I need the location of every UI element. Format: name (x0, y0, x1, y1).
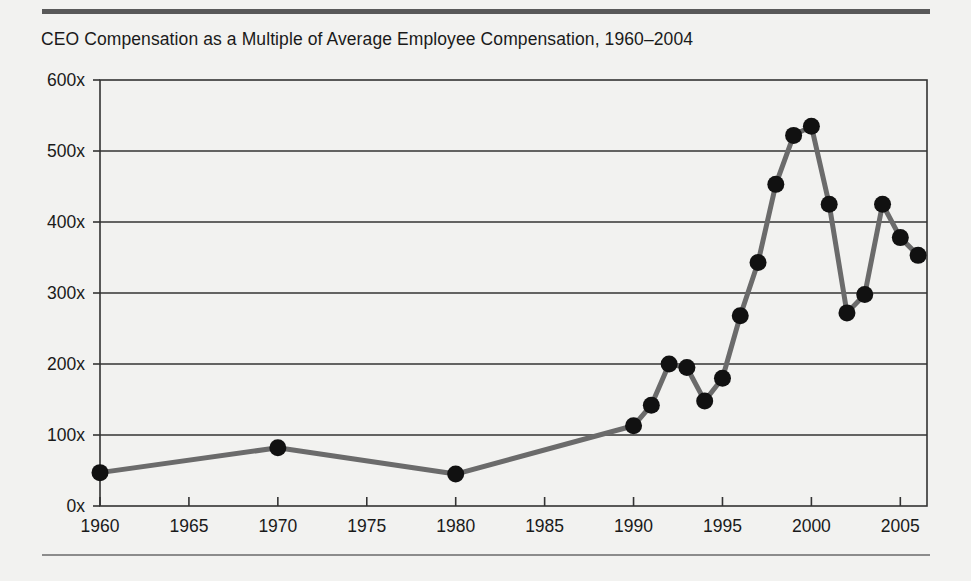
data-point-1960 (92, 464, 109, 481)
data-point-1999 (785, 127, 802, 144)
data-point-1997 (750, 254, 767, 271)
x-tick-label-1985: 1985 (525, 516, 564, 536)
y-tick-label-600: 600x (47, 70, 85, 90)
x-tick-label-1975: 1975 (347, 516, 386, 536)
line-chart-svg: 0x100x200x300x400x500x600x 1960196519701… (0, 0, 971, 581)
plot-area-wrapper: 0x100x200x300x400x500x600x 1960196519701… (0, 0, 971, 581)
data-points-group (92, 118, 927, 483)
data-point-1993 (678, 359, 695, 376)
data-point-1991 (643, 397, 660, 414)
data-point-1992 (661, 356, 678, 373)
data-point-2004 (874, 196, 891, 213)
data-point-1998 (767, 176, 784, 193)
x-axis-ticks-group (100, 497, 900, 506)
x-axis-labels-group: 1960196519701975198019851990199520002005 (81, 516, 920, 536)
data-point-2002 (838, 304, 855, 321)
y-axis-ticks-group (93, 80, 100, 506)
data-series-line (100, 126, 918, 474)
bottom-rule-divider (42, 554, 930, 556)
x-tick-label-2005: 2005 (881, 516, 920, 536)
data-point-1995 (714, 370, 731, 387)
y-axis-labels-group: 0x100x200x300x400x500x600x (47, 70, 85, 516)
x-tick-label-2000: 2000 (792, 516, 831, 536)
y-tick-label-0: 0x (67, 496, 86, 516)
x-tick-label-1960: 1960 (81, 516, 120, 536)
x-tick-label-1990: 1990 (614, 516, 653, 536)
y-tick-label-200: 200x (47, 354, 85, 374)
y-tick-label-400: 400x (47, 212, 85, 232)
data-point-1996 (732, 307, 749, 324)
data-point-2000 (803, 118, 820, 135)
gridlines-group (100, 151, 927, 435)
x-tick-label-1980: 1980 (436, 516, 475, 536)
data-point-1994 (696, 392, 713, 409)
data-point-1970 (269, 439, 286, 456)
data-point-2005 (892, 229, 909, 246)
data-point-2003 (856, 286, 873, 303)
data-line-group (100, 126, 918, 474)
data-point-2006 (910, 247, 927, 264)
y-tick-label-300: 300x (47, 283, 85, 303)
data-point-1980 (447, 466, 464, 483)
x-tick-label-1995: 1995 (703, 516, 742, 536)
data-point-1990 (625, 417, 642, 434)
data-point-2001 (821, 196, 838, 213)
y-tick-label-100: 100x (47, 425, 85, 445)
figure-container: CEO Compensation as a Multiple of Averag… (0, 0, 971, 581)
y-tick-label-500: 500x (47, 141, 85, 161)
x-tick-label-1970: 1970 (258, 516, 297, 536)
x-tick-label-1965: 1965 (169, 516, 208, 536)
